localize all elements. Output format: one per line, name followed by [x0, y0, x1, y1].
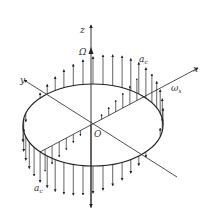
acceleration-bottom-label: ac — [34, 183, 43, 194]
disk-diagram: z Ω x y O ωx ac ac — [0, 0, 207, 218]
acceleration-top-label: ac — [139, 54, 148, 65]
omega-x-label: ωx — [171, 83, 182, 94]
coriolis-arrows — [23, 55, 163, 195]
x-axis-label: x — [193, 64, 198, 74]
z-axis-label: z — [79, 25, 85, 35]
omega-label: Ω — [78, 47, 87, 57]
origin-label: O — [94, 129, 102, 139]
omega-arrowhead-icon — [89, 47, 94, 54]
disk-ellipse — [23, 84, 163, 166]
y-axis-label: y — [19, 75, 26, 85]
